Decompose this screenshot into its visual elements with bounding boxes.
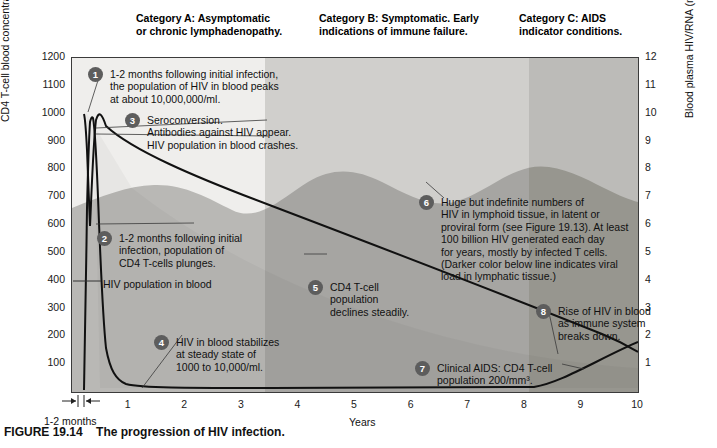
annotation-8: 8 Rise of HIV in blood as immune system … <box>558 305 651 342</box>
annotation-4: 4 HIV in blood stabilizes at steady stat… <box>176 336 279 373</box>
category-c-line1: Category C: AIDS <box>519 12 622 25</box>
category-heading-a: Category A: Asymptomatic or chronic lymp… <box>136 12 282 37</box>
category-a-line2: or chronic lymphadenopathy. <box>136 25 282 38</box>
annotation-3-line3: HIV population in blood crashes. <box>147 139 298 151</box>
hiv-population-leader-line <box>73 277 103 285</box>
y-axis-left-tick: 1000 <box>31 106 65 118</box>
annotation-4-line1: HIV in blood stabilizes <box>176 336 279 348</box>
annotation-7-line2: population 200/mm³. <box>437 374 552 386</box>
y-axis-right-tick: 9 <box>645 134 665 146</box>
annotation-4-line3: 1000 to 10,000/ml. <box>176 361 279 373</box>
x-axis-tick: 6 <box>399 398 423 410</box>
annotation-6-line4: 100 billion HIV generated each day <box>441 233 628 245</box>
y-axis-right-tick: 12 <box>645 50 665 62</box>
annotation-6-line3: proviral form (see Figure 19.13). At lea… <box>441 221 628 233</box>
annotation-2-badge: 2 <box>97 231 112 246</box>
y-axis-right-tick: 7 <box>645 189 665 201</box>
annotation-1-line1: 1-2 months following initial infection, <box>110 68 279 80</box>
y-axis-right-tick: 1 <box>645 356 665 368</box>
y-axis-right-tick: 10 <box>645 106 665 118</box>
annotation-1-line3: at about 10,000,000/ml. <box>110 93 279 105</box>
annotation-6-line1: Huge but indefinite numbers of <box>441 196 628 208</box>
annotation-7: 7 Clinical AIDS: CD4 T-cell population 2… <box>437 362 552 387</box>
figure-caption: FIGURE 19.14 The progression of HIV infe… <box>4 425 285 439</box>
annotation-3: 3 Seroconversion. Antibodies against HIV… <box>147 114 298 151</box>
category-b-line2: indications of immune failure. <box>319 25 479 38</box>
annotation-5-line2: population <box>330 293 409 305</box>
annotation-8-line1: Rise of HIV in blood <box>558 305 651 317</box>
annotation-3-badge: 3 <box>125 113 140 128</box>
annotation-4-line2: at steady state of <box>176 348 279 360</box>
y-axis-right-tick: 4 <box>645 273 665 285</box>
annotation-5: 5 CD4 T-cell population declines steadil… <box>330 281 409 318</box>
category-b-line1: Category B: Symptomatic. Early <box>319 12 479 25</box>
annotation-7-badge: 7 <box>415 361 430 376</box>
annotation-6-line6: (Darker color below line indicates viral <box>441 258 628 270</box>
annotation-3-line2: Antibodies against HIV appear. <box>147 126 298 138</box>
y-axis-left-tick: 600 <box>31 217 65 229</box>
annotation-5-line3: declines steadily. <box>330 306 409 318</box>
y-axis-left-tick: 900 <box>31 134 65 146</box>
figure-caption-text: The progression of HIV infection. <box>96 425 285 439</box>
y-axis-right-label: Blood plasma HIV/RNA (millions of copies… <box>683 0 695 118</box>
annotation-8-line2: as immune system <box>558 317 651 329</box>
annotation-6: 6 Huge but indefinite numbers of HIV in … <box>441 196 628 283</box>
y-axis-left-tick: 100 <box>31 356 65 368</box>
annotation-1: 1 1-2 months following initial infection… <box>110 68 279 105</box>
hiv-population-label: HIV population in blood <box>103 278 212 290</box>
y-axis-left-label: CD4 T-cell blood concentration (cells/mm… <box>0 0 11 122</box>
y-axis-right-tick: 5 <box>645 245 665 257</box>
x-axis-tick: 7 <box>455 398 479 410</box>
annotation-1-line2: the population of HIV in blood peaks <box>110 80 279 92</box>
y-axis-left-tick: 1200 <box>31 50 65 62</box>
x-axis-tick: 8 <box>512 398 536 410</box>
y-axis-left-tick: 400 <box>31 273 65 285</box>
y-axis-left-tick: 200 <box>31 328 65 340</box>
annotation-2-line1: 1-2 months following initial <box>119 232 242 244</box>
annotation-1-badge: 1 <box>88 67 103 82</box>
category-heading-c: Category C: AIDS indicator conditions. <box>519 12 622 37</box>
annotation-2-line2: infection, population of <box>119 244 242 256</box>
x-axis-label: Years <box>349 416 375 428</box>
y-axis-left-tick: 500 <box>31 245 65 257</box>
category-a-line1: Category A: Asymptomatic <box>136 12 282 25</box>
annotation-6-line7: load in lymphatic tissue.) <box>441 270 628 282</box>
category-heading-b: Category B: Symptomatic. Early indicatio… <box>319 12 479 37</box>
annotation-6-badge: 6 <box>419 195 434 210</box>
y-axis-right-tick: 11 <box>645 78 665 90</box>
annotation-5-badge: 5 <box>308 280 323 295</box>
annotation-7-line1: Clinical AIDS: CD4 T-cell <box>437 362 552 374</box>
y-axis-left-tick: 300 <box>31 301 65 313</box>
annotation-8-badge: 8 <box>536 304 551 319</box>
category-c-line2: indicator conditions. <box>519 25 622 38</box>
y-axis-left-tick: 700 <box>31 189 65 201</box>
annotation-5-line1: CD4 T-cell <box>330 281 409 293</box>
months-bracket-icon <box>60 393 108 409</box>
figure-root: Category A: Asymptomatic or chronic lymp… <box>0 0 717 448</box>
annotation-8-line3: breaks down. <box>558 330 651 342</box>
x-axis-tick: 10 <box>625 398 649 410</box>
figure-number: FIGURE 19.14 <box>4 425 83 439</box>
x-axis-tick: 3 <box>229 398 253 410</box>
annotation-4-badge: 4 <box>154 335 169 350</box>
x-axis-tick: 9 <box>568 398 592 410</box>
annotation-2-line3: CD4 T-cells plunges. <box>119 257 242 269</box>
x-axis-tick: 1 <box>116 398 140 410</box>
y-axis-left-tick: 800 <box>31 161 65 173</box>
y-axis-right-tick: 6 <box>645 217 665 229</box>
y-axis-left-tick: 1100 <box>31 78 65 90</box>
annotation-3-line1: Seroconversion. <box>147 114 298 126</box>
y-axis-right-tick: 8 <box>645 161 665 173</box>
annotation-6-line5: for years, mostly by infected T cells. <box>441 246 628 258</box>
annotation-2: 2 1-2 months following initial infection… <box>119 232 242 269</box>
annotation-6-line2: HIV in lymphoid tissue, in latent or <box>441 208 628 220</box>
x-axis-tick: 5 <box>342 398 366 410</box>
x-axis-tick: 4 <box>285 398 309 410</box>
x-axis-tick: 2 <box>172 398 196 410</box>
